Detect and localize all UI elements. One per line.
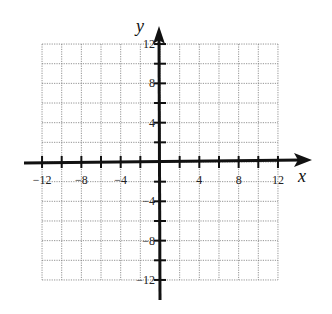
- coordinate-plane: −12−8−448121284−4−8−12 x y: [0, 0, 332, 314]
- y-tick-label: 4: [149, 116, 155, 130]
- y-tick-label: −8: [142, 234, 155, 248]
- y-axis-label: y: [134, 16, 144, 36]
- x-tick-label: −8: [75, 173, 88, 187]
- x-tick-label: 4: [196, 173, 202, 187]
- y-tick-label: 8: [149, 76, 155, 90]
- y-tick-label: −12: [136, 273, 155, 287]
- x-tick-label: 12: [272, 173, 284, 187]
- x-tick-label: −12: [33, 173, 52, 187]
- y-tick-label: 12: [143, 37, 155, 51]
- y-tick-label: −4: [142, 194, 155, 208]
- x-axis: [24, 160, 302, 163]
- x-tick-label: −4: [114, 173, 127, 187]
- axes: [24, 26, 312, 300]
- x-tick-label: 8: [236, 173, 242, 187]
- x-axis-label: x: [297, 166, 306, 186]
